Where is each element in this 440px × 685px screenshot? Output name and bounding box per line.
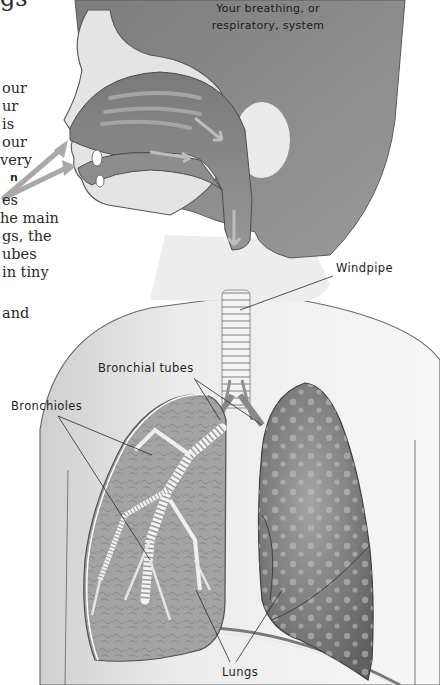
respiratory-illustration bbox=[0, 0, 440, 685]
body-text-line: our bbox=[2, 132, 27, 152]
diagram-title-line-1: Your breathing, or bbox=[193, 0, 343, 17]
body-text-line: is bbox=[2, 114, 14, 134]
diagram-title: Your breathing, or respiratory, system bbox=[193, 0, 343, 34]
body-text-line: he main bbox=[0, 208, 59, 228]
body-text-line: n bbox=[10, 168, 18, 188]
body-text-line: es bbox=[2, 190, 18, 210]
heading-fragment: gs bbox=[0, 0, 28, 8]
body-text-line: ur bbox=[2, 96, 18, 116]
body-text-line: gs, the bbox=[2, 226, 52, 246]
body-text-line: ubes bbox=[2, 244, 37, 264]
respiratory-diagram: gs our ur is our very n es he main gs, t… bbox=[0, 0, 440, 685]
nasal-cavity bbox=[70, 72, 252, 250]
body-text-line: very bbox=[0, 150, 32, 170]
label-bronchial-tubes: Bronchial tubes bbox=[98, 361, 194, 375]
label-windpipe: Windpipe bbox=[336, 261, 393, 275]
label-lungs: Lungs bbox=[222, 665, 258, 679]
body-text-line: in tiny bbox=[2, 262, 49, 282]
body-text-line: and bbox=[2, 303, 29, 323]
label-bronchioles: Bronchioles bbox=[11, 399, 82, 413]
diagram-title-line-2: respiratory, system bbox=[193, 17, 343, 34]
body-text-line: our bbox=[2, 78, 27, 98]
